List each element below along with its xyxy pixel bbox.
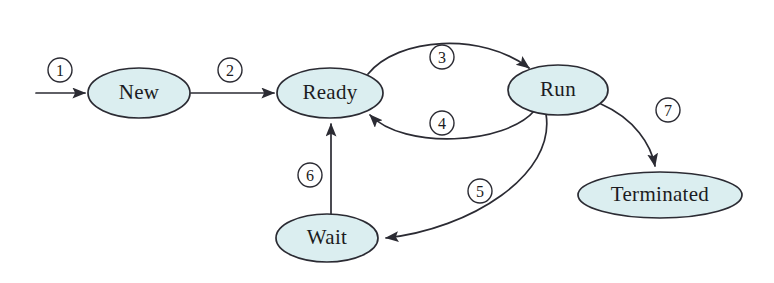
edge-4-run-to-ready (370, 110, 535, 139)
edge-label-7: 7 (656, 98, 680, 122)
edge-label-1-text: 1 (56, 62, 64, 79)
edge-label-4-text: 4 (438, 115, 446, 132)
edge-label-3-text: 3 (438, 49, 446, 66)
node-wait-label: Wait (307, 225, 347, 249)
node-ready-label: Ready (302, 80, 357, 104)
state-diagram-canvas: New Ready Run Wait Terminated 1 2 (0, 0, 774, 283)
edge-label-1: 1 (48, 58, 72, 82)
node-run[interactable]: Run (508, 65, 608, 115)
edge-5-curve (386, 114, 547, 238)
edge-label-6: 6 (298, 163, 322, 187)
edge-3-arc (368, 43, 529, 74)
edge-label-4: 4 (430, 111, 454, 135)
node-new-label: New (119, 80, 160, 104)
edge-7-run-to-terminated (601, 104, 655, 166)
node-new[interactable]: New (88, 68, 190, 118)
node-wait[interactable]: Wait (276, 214, 378, 262)
edge-label-5-text: 5 (476, 183, 484, 200)
edge-label-7-text: 7 (664, 102, 672, 119)
edge-3-ready-to-run (368, 43, 529, 74)
edge-label-6-text: 6 (306, 167, 314, 184)
edge-label-5: 5 (468, 179, 492, 203)
edge-label-2-text: 2 (226, 62, 234, 79)
node-run-label: Run (540, 77, 576, 101)
edge-7-curve (601, 104, 655, 166)
node-terminated-label: Terminated (611, 182, 710, 206)
edge-label-3: 3 (430, 45, 454, 69)
state-diagram: New Ready Run Wait Terminated 1 2 (0, 0, 774, 283)
node-terminated[interactable]: Terminated (578, 172, 742, 218)
edge-5-run-to-wait (386, 114, 547, 238)
edge-4-arc (370, 110, 535, 139)
node-ready[interactable]: Ready (277, 68, 383, 118)
edge-label-2: 2 (218, 58, 242, 82)
